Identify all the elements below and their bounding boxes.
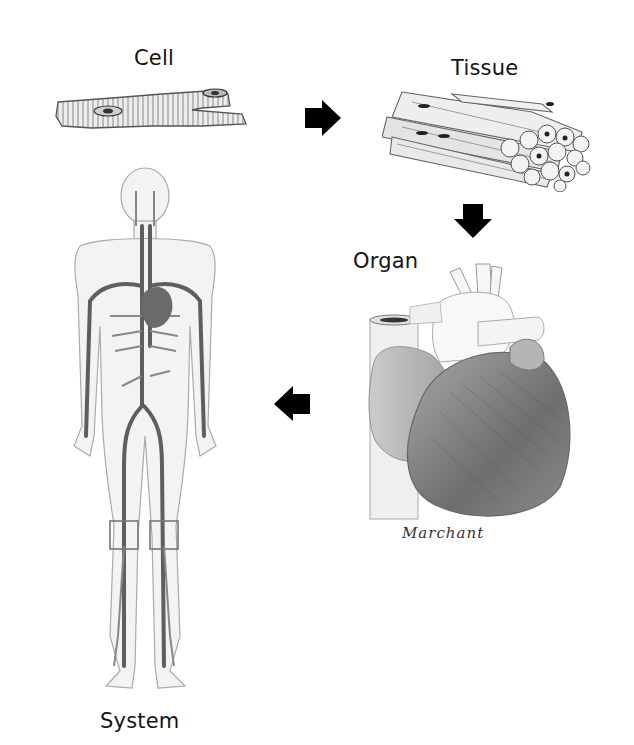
circulatory-system-figure-illustration: [40, 166, 250, 696]
cardiac-muscle-cell-illustration: [52, 80, 252, 135]
stage-label-system: System: [100, 709, 180, 733]
arrow-left-icon: [273, 386, 311, 422]
stage-label-cell: Cell: [134, 46, 174, 70]
artist-signature: Marchant: [402, 524, 484, 542]
stage-label-tissue: Tissue: [451, 56, 518, 80]
arrow-right-icon: [305, 100, 342, 137]
muscle-fiber-bundle-illustration: [382, 82, 602, 192]
heart-illustration: [360, 262, 580, 524]
arrow-down-icon: [453, 204, 493, 239]
